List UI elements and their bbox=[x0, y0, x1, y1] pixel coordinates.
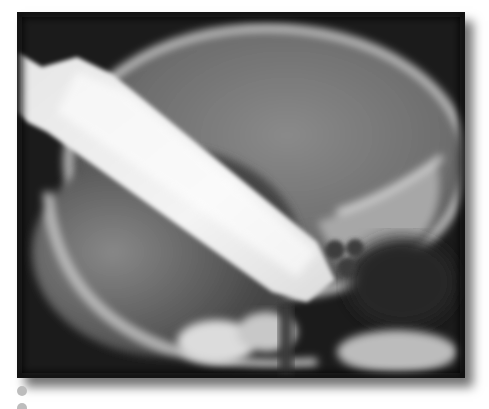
bullet-dot bbox=[17, 386, 27, 396]
skull-xray-image bbox=[17, 12, 465, 378]
bullet-dot bbox=[17, 403, 27, 409]
page bbox=[0, 0, 489, 409]
xray-image-frame bbox=[17, 12, 465, 378]
